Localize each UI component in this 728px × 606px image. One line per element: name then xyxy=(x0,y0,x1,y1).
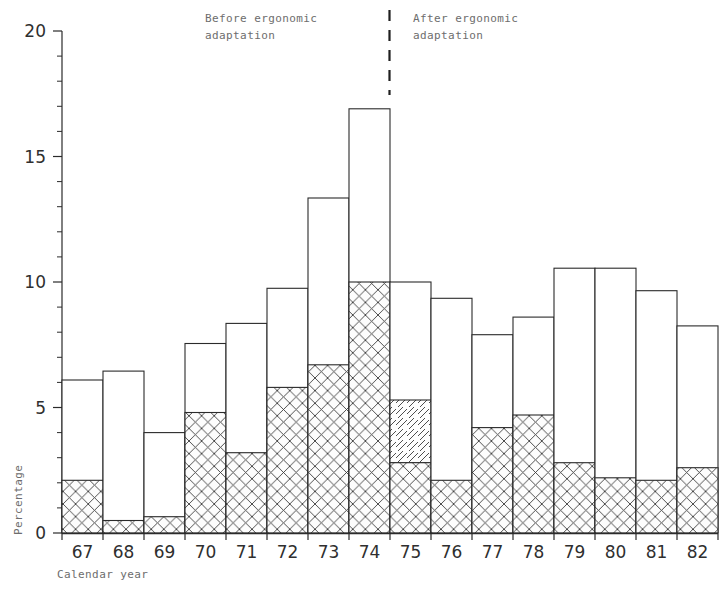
x-tick-label-81: 81 xyxy=(646,542,668,562)
bar-82-hatch xyxy=(677,468,718,533)
bar-76 xyxy=(431,298,472,533)
bar-81-hatch xyxy=(636,480,677,533)
x-tick-label-82: 82 xyxy=(687,542,709,562)
bar-chart-svg: 20 15 10 5 0 Percentage xyxy=(0,0,728,606)
bars-group xyxy=(62,109,718,533)
bar-70 xyxy=(185,344,226,534)
bar-75 xyxy=(390,282,431,533)
y-tick-label-5: 5 xyxy=(35,398,46,418)
bar-72-hatch xyxy=(267,387,308,533)
bar-77 xyxy=(472,335,513,533)
bar-75-hatch xyxy=(390,463,431,533)
bar-82 xyxy=(677,326,718,533)
x-tick-label-80: 80 xyxy=(605,542,627,562)
bar-80-hatch xyxy=(595,478,636,533)
x-tick-label-68: 68 xyxy=(113,542,135,562)
bar-78 xyxy=(513,317,554,533)
x-tick-label-72: 72 xyxy=(277,542,299,562)
bar-78-hatch xyxy=(513,415,554,533)
bar-76-hatch xyxy=(431,480,472,533)
x-tick-label-79: 79 xyxy=(564,542,586,562)
x-tick-labels: 67 68 69 70 71 72 73 74 75 76 77 78 79 8… xyxy=(72,542,709,562)
bar-81 xyxy=(636,291,677,533)
annotation-after-line1: After ergonomic xyxy=(413,12,518,25)
bar-69-hatch xyxy=(144,517,185,533)
x-tick-label-77: 77 xyxy=(482,542,504,562)
bar-71-hatch xyxy=(226,453,267,533)
bar-73-hatch xyxy=(308,365,349,533)
bar-73 xyxy=(308,198,349,533)
bar-79 xyxy=(554,268,595,533)
bar-80 xyxy=(595,268,636,533)
y-tick-label-0: 0 xyxy=(35,523,46,543)
bar-75-diagonal xyxy=(390,400,431,463)
y-tick-labels: 20 15 10 5 0 xyxy=(24,21,46,543)
x-tick-label-76: 76 xyxy=(441,542,463,562)
y-axis xyxy=(53,31,62,534)
bar-74-hatch xyxy=(349,282,390,533)
bar-68-open xyxy=(103,371,144,533)
annotation-after-line2: adaptation xyxy=(413,29,483,42)
chart-figure: 20 15 10 5 0 Percentage xyxy=(0,0,728,606)
y-tick-label-20: 20 xyxy=(24,21,46,41)
x-tick-label-78: 78 xyxy=(523,542,545,562)
x-tick-label-67: 67 xyxy=(72,542,94,562)
x-tick-label-70: 70 xyxy=(195,542,217,562)
x-axis xyxy=(62,534,718,541)
annotation-before-line2: adaptation xyxy=(205,29,275,42)
bar-67 xyxy=(62,380,103,533)
x-tick-label-73: 73 xyxy=(318,542,340,562)
x-tick-label-74: 74 xyxy=(359,542,381,562)
x-axis-title: Calendar year xyxy=(57,568,148,581)
bar-68-hatch xyxy=(103,521,144,534)
x-tick-label-71: 71 xyxy=(236,542,258,562)
bar-68 xyxy=(103,371,144,533)
annotation-before-line1: Before ergonomic xyxy=(205,12,317,25)
bar-72 xyxy=(267,288,308,533)
bar-74 xyxy=(349,109,390,533)
bar-67-hatch xyxy=(62,480,103,533)
x-tick-label-75: 75 xyxy=(400,542,422,562)
annotation-before: Before ergonomic adaptation xyxy=(205,12,317,42)
y-tick-label-10: 10 xyxy=(24,272,46,292)
y-tick-label-15: 15 xyxy=(24,147,46,167)
bar-69 xyxy=(144,433,185,533)
x-tick-label-69: 69 xyxy=(154,542,176,562)
annotation-after: After ergonomic adaptation xyxy=(413,12,518,42)
bar-77-hatch xyxy=(472,428,513,533)
y-axis-title: Percentage xyxy=(12,465,25,535)
bar-79-hatch xyxy=(554,463,595,533)
bar-70-hatch xyxy=(185,413,226,534)
bar-71 xyxy=(226,323,267,533)
